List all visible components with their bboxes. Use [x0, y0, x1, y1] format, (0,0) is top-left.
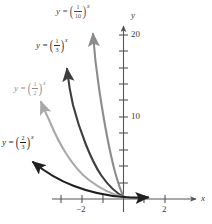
label-lhs-one-tenth: y [56, 7, 60, 16]
numerator-one-tenth: 1 [76, 4, 81, 10]
label-equals-two-thirds: = [8, 138, 14, 147]
paren-open-one-third: ( [50, 38, 53, 53]
y-axis [119, 26, 128, 212]
y-tick-label-20: 20 [131, 29, 140, 39]
label-equals-one-third: = [42, 41, 48, 50]
paren-close-two-thirds: ) [27, 135, 30, 150]
label-lhs-one-third: y [36, 41, 40, 50]
plot-canvas [0, 0, 212, 224]
paren-close-one-tenth: ) [83, 4, 86, 19]
curve-label-one-tenth: y = ( 1 10 ) x [56, 4, 90, 19]
exponential-functions-figure: y = ( 1 10 ) x y = ( 1 3 ) x y = ( 1 2 ) [0, 0, 212, 224]
denominator-two-thirds: 3 [21, 144, 26, 150]
paren-close-one-third: ) [61, 38, 64, 53]
y-axis-label: y [131, 10, 135, 20]
x-tick-label-2: 2 [162, 204, 167, 214]
exponent-two-thirds: x [31, 134, 34, 140]
curve-label-one-third: y = ( 1 3 ) x [36, 38, 68, 53]
exponent-one-third: x [65, 37, 68, 43]
fraction-one-third: 1 3 [54, 38, 60, 53]
curve-label-one-half: y = ( 1 2 ) x [14, 81, 46, 96]
label-equals-one-half: = [20, 84, 26, 93]
exponent-one-half: x [43, 80, 46, 86]
label-lhs-two-thirds: y [2, 138, 6, 147]
exponent-one-tenth: x [87, 3, 90, 9]
paren-open-two-thirds: ( [16, 135, 19, 150]
y-tick-label-10: 10 [131, 111, 140, 121]
x-tick-label--2: −2 [76, 204, 86, 214]
numerator-one-third: 1 [55, 38, 60, 44]
curve-tail-right [124, 197, 148, 198]
denominator-one-third: 3 [55, 47, 60, 53]
paren-close-one-half: ) [39, 81, 42, 96]
denominator-one-half: 2 [33, 90, 38, 96]
paren-open-one-half: ( [28, 81, 31, 96]
paren-open-one-tenth: ( [70, 4, 73, 19]
fraction-one-half: 1 2 [32, 81, 38, 96]
numerator-two-thirds: 2 [21, 135, 26, 141]
label-equals-one-tenth: = [62, 7, 68, 16]
curve-label-two-thirds: y = ( 2 3 ) x [2, 135, 34, 150]
curve-one-tenth-path [93, 34, 124, 197]
curve-one-third-path [67, 69, 124, 197]
fraction-one-tenth: 1 10 [74, 4, 82, 19]
numerator-one-half: 1 [33, 81, 38, 87]
x-axis-label: x [201, 193, 205, 203]
label-lhs-one-half: y [14, 84, 18, 93]
curve-one-half-path [41, 102, 124, 197]
fraction-two-thirds: 2 3 [20, 135, 26, 150]
denominator-one-tenth: 10 [74, 13, 82, 19]
